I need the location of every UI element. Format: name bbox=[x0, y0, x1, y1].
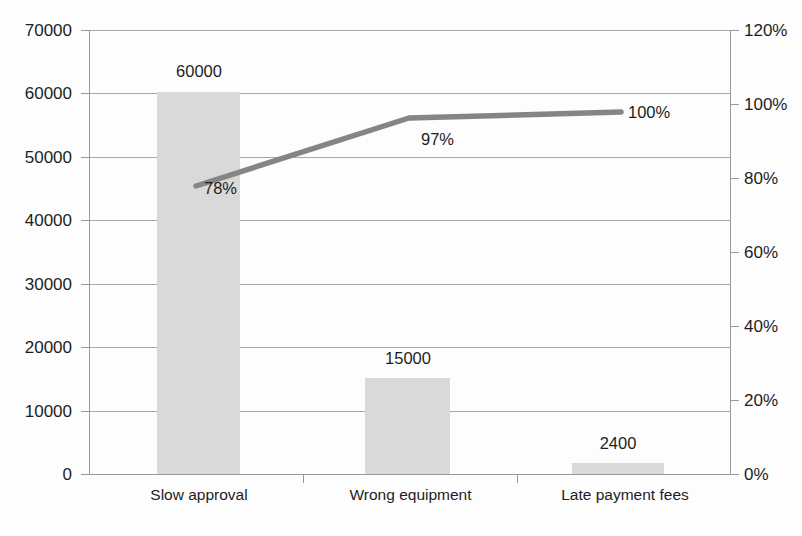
y-axis-left-label-60000: 60000 bbox=[25, 85, 72, 102]
pct-label-slow-approval: 78% bbox=[204, 180, 237, 197]
y-axis-left-label-30000: 30000 bbox=[25, 276, 72, 293]
tick-right-80 bbox=[731, 178, 739, 179]
y-axis-right-label-100: 100% bbox=[744, 96, 787, 113]
category-label-slow-approval: Slow approval bbox=[99, 487, 299, 503]
y-axis-right-label-80: 80% bbox=[744, 170, 778, 187]
y-axis-right-label-20: 20% bbox=[744, 392, 778, 409]
gridline-70000 bbox=[89, 30, 731, 31]
tick-right-20 bbox=[731, 400, 739, 401]
tick-right-40 bbox=[731, 326, 739, 327]
y-axis-left-label-0: 0 bbox=[63, 466, 72, 483]
bar-slow-approval[interactable] bbox=[157, 92, 240, 474]
y-axis-left bbox=[89, 30, 90, 475]
category-label-wrong-equipment: Wrong equipment bbox=[307, 487, 514, 503]
category-tick-1 bbox=[303, 475, 304, 483]
x-axis bbox=[89, 474, 732, 475]
y-axis-left-label-10000: 10000 bbox=[25, 403, 72, 420]
tick-left-0 bbox=[81, 474, 89, 475]
tick-left-30000 bbox=[81, 284, 89, 285]
category-tick-2 bbox=[517, 475, 518, 483]
bar-late-payment-fees[interactable] bbox=[572, 463, 664, 474]
category-label-late-payment-fees: Late payment fees bbox=[521, 487, 729, 503]
tick-left-70000 bbox=[81, 30, 89, 31]
tick-left-60000 bbox=[81, 93, 89, 94]
tick-right-60 bbox=[731, 252, 739, 253]
tick-left-10000 bbox=[81, 411, 89, 412]
pct-label-late-payment-fees: 100% bbox=[628, 104, 670, 121]
bar-value-label-late-payment-fees: 2400 bbox=[572, 435, 664, 452]
pct-label-wrong-equipment: 97% bbox=[421, 131, 454, 148]
tick-left-40000 bbox=[81, 220, 89, 221]
y-axis-right-label-120: 120% bbox=[744, 22, 787, 39]
y-axis-right-label-40: 40% bbox=[744, 318, 778, 335]
y-axis-left-label-20000: 20000 bbox=[25, 339, 72, 356]
y-axis-right-label-0: 0% bbox=[744, 466, 769, 483]
tick-left-20000 bbox=[81, 347, 89, 348]
y-axis-left-label-50000: 50000 bbox=[25, 149, 72, 166]
tick-right-0 bbox=[731, 474, 739, 475]
y-axis-left-label-70000: 70000 bbox=[25, 22, 72, 39]
bar-wrong-equipment[interactable] bbox=[365, 378, 450, 474]
tick-left-50000 bbox=[81, 157, 89, 158]
pareto-chart: 70000 60000 50000 40000 30000 20000 1000… bbox=[0, 0, 802, 536]
y-axis-left-label-40000: 40000 bbox=[25, 212, 72, 229]
bar-value-label-slow-approval: 60000 bbox=[158, 63, 240, 80]
bar-value-label-wrong-equipment: 15000 bbox=[366, 350, 450, 367]
y-axis-right-label-60: 60% bbox=[744, 244, 778, 261]
tick-right-100 bbox=[731, 104, 739, 105]
tick-right-120 bbox=[731, 30, 739, 31]
